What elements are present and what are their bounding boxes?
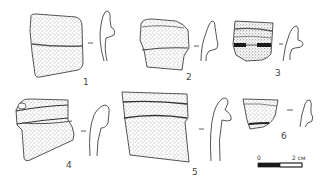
scale-start-label: 0 [257, 154, 261, 161]
sherd-2: 2 [140, 19, 218, 82]
sherd-2-label: 2 [186, 72, 192, 82]
sherd-3: 3 [233, 21, 303, 78]
sherd-4-label: 4 [66, 160, 72, 170]
sherd-1: 1 [30, 11, 115, 87]
scale-bar-filled [258, 163, 280, 167]
sherd-4-profile [90, 105, 110, 156]
sherd-3-label: 3 [275, 68, 281, 78]
sherd-4: 4 [16, 99, 109, 170]
sherd-6-label: 6 [281, 131, 287, 141]
sherd-6-profile [300, 100, 313, 127]
sherd-3-profile [283, 26, 303, 61]
scale-bar: 0 2 см [257, 154, 306, 167]
pottery-plate: 1 2 3 4 5 [0, 0, 324, 185]
sherd-5-profile [210, 98, 231, 161]
sherd-5-label: 5 [192, 167, 198, 177]
sherd-1-label: 1 [83, 77, 89, 87]
sherd-6: 6 [243, 99, 313, 141]
sherd-2-profile [201, 21, 218, 61]
sherd-3-exterior [233, 21, 273, 61]
scale-bar-empty [280, 163, 302, 167]
sherd-5: 5 [122, 92, 231, 177]
scale-end-label: 2 см [292, 154, 306, 161]
sherd-1-profile [100, 11, 115, 61]
